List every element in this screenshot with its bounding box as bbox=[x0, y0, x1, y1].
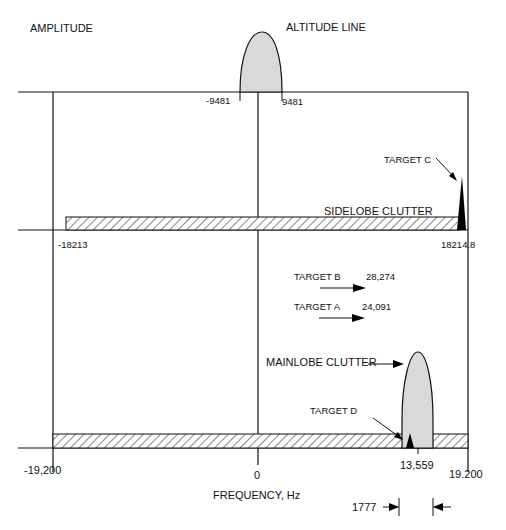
doppler-spectrum-diagram bbox=[0, 0, 506, 530]
target-c-spike bbox=[457, 176, 466, 230]
sidelobe-clutter-label: SIDELOBE CLUTTER bbox=[324, 206, 433, 217]
y-axis-label: AMPLITUDE bbox=[30, 23, 93, 34]
tick-pos-19200: 19.200 bbox=[449, 469, 483, 480]
target-a-freq: 24,091 bbox=[362, 302, 391, 312]
altitude-line-lobe bbox=[240, 32, 282, 92]
x-axis-label: FREQUENCY, Hz bbox=[213, 490, 300, 501]
sidelobe-clutter-band bbox=[66, 217, 460, 230]
tick-neg-19200: -19,200 bbox=[24, 465, 61, 476]
target-d-label: TARGET D bbox=[310, 406, 357, 416]
tick-neg-18213: -18213 bbox=[58, 240, 88, 250]
altitude-line-label: ALTITUDE LINE bbox=[286, 22, 366, 33]
target-b-freq: 28,274 bbox=[366, 272, 395, 282]
tick-pos-18214: 18214.8 bbox=[441, 240, 475, 250]
tick-pos-9481: 9481 bbox=[282, 97, 303, 107]
target-a-label: TARGET A bbox=[294, 302, 340, 312]
target-c-label: TARGET C bbox=[384, 155, 431, 165]
target-b-label: TARGET B bbox=[294, 272, 341, 282]
mainlobe-clutter-label: MAINLOBE CLUTTER bbox=[266, 357, 377, 368]
tick-zero: 0 bbox=[254, 470, 260, 481]
tick-neg-9481: -9481 bbox=[206, 96, 230, 106]
width-1777-label: 1777 bbox=[352, 502, 376, 513]
tick-13559: 13,559 bbox=[400, 460, 434, 471]
mainlobe-clutter-lobe bbox=[402, 352, 433, 448]
